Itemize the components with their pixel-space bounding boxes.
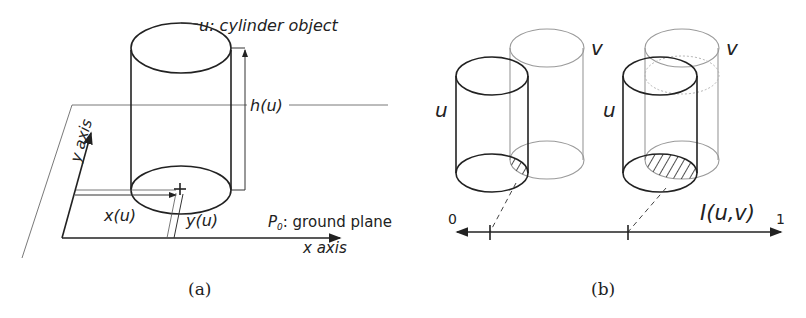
ground-plane-label: P0: ground plane xyxy=(268,213,392,232)
x-axis-label: x axis xyxy=(302,239,347,257)
projection-line-right xyxy=(628,188,666,232)
intersection-measure-label: I(u,v) xyxy=(700,201,755,225)
object-label: u: cylinder object xyxy=(199,16,339,35)
y-coordinate-lines xyxy=(167,193,183,238)
intersection-scale-axis xyxy=(457,225,781,240)
figure: u: cylinder object h(u) y axis x axis x(… xyxy=(0,0,806,318)
y-axis-label: y axis xyxy=(66,117,96,165)
panel-b: u v u v 0 1 I(u,v) xyxy=(435,29,785,299)
panel-a: u: cylinder object h(u) y axis x axis x(… xyxy=(22,16,392,299)
v-label-right: v xyxy=(726,36,739,60)
cylinder-v-left xyxy=(510,29,584,179)
x-coordinate-lines xyxy=(75,190,176,195)
x-coordinate-label: x(u) xyxy=(103,206,136,225)
u-label-right: u xyxy=(603,98,616,122)
height-bracket xyxy=(231,48,245,190)
v-label-left: v xyxy=(591,36,604,60)
scale-min-label: 0 xyxy=(448,211,457,227)
u-label-left: u xyxy=(435,98,448,122)
caption-a: (a) xyxy=(188,279,211,299)
caption-b: (b) xyxy=(591,279,615,299)
scale-max-label: 1 xyxy=(776,211,785,227)
y-coordinate-label: y(u) xyxy=(185,211,218,230)
height-label: h(u) xyxy=(250,96,283,115)
cylinder-u xyxy=(131,23,231,214)
